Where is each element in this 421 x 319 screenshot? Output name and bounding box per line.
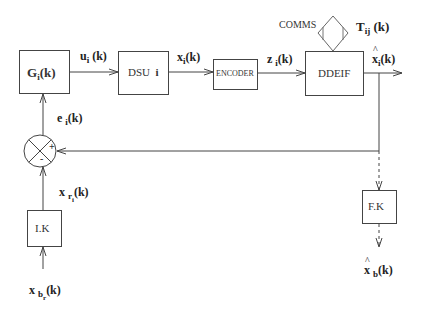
dsu-suffix: i <box>156 66 159 78</box>
signal-xhatb-label: x b(k) <box>364 264 393 279</box>
plus-text: + <box>49 141 55 152</box>
xhatb-base: x <box>364 264 370 276</box>
xhat-base: x <box>372 53 378 65</box>
t-suffix: (k) <box>373 19 389 34</box>
comms-arrow-icon <box>318 16 348 51</box>
signal-e-label: e i(k) <box>57 112 83 127</box>
plus-sign: + <box>49 142 55 152</box>
xhatb-suffix: (k) <box>378 263 393 277</box>
e-base: e <box>57 111 62 125</box>
g-suffix: (k) <box>40 65 56 80</box>
signal-z-label: z i(k) <box>267 53 293 68</box>
u-suffix: (k) <box>92 49 107 63</box>
z-base: z <box>267 52 272 66</box>
comms-text: COMMS <box>279 19 316 30</box>
ddeif-label: DDEIF <box>318 67 350 79</box>
e-suffix: (k) <box>68 111 83 125</box>
dsu-label: DSU <box>128 66 150 78</box>
xb-suffix: (k) <box>46 283 61 297</box>
minus-sign: - <box>40 154 43 164</box>
u-sub: i <box>87 55 90 65</box>
signal-xb-label: x br(k) <box>29 284 61 302</box>
ik-label: I.K <box>35 222 49 234</box>
x-suffix: (k) <box>186 50 201 64</box>
g-block-label: Gi(k) <box>27 66 56 82</box>
xb-base: x <box>29 283 35 297</box>
z-suffix: (k) <box>278 52 293 66</box>
fk-label: F.K <box>368 200 384 212</box>
signal-xr-label: x ri(k) <box>59 186 89 204</box>
signal-x-label: xi(k) <box>177 51 200 66</box>
diagram-canvas <box>0 0 421 319</box>
signal-u-label: ui (k) <box>80 50 107 65</box>
dsu-block-label: DSU i <box>128 67 159 78</box>
xr-base: x <box>59 185 65 199</box>
t-sub: ij <box>365 26 371 36</box>
minus-text: - <box>40 153 43 164</box>
ddeif-block-label: DDEIF <box>318 68 350 79</box>
fk-block-label: F.K <box>368 201 384 212</box>
t-base: T <box>356 19 365 34</box>
comms-signal-label: Tij (k) <box>356 20 389 36</box>
xr-suffix: (k) <box>74 185 89 199</box>
u-base: u <box>80 49 87 63</box>
g-label: G <box>27 65 37 80</box>
signal-xhat-label: xi(k) <box>372 53 395 68</box>
encoder-label: ENCODER <box>216 69 254 78</box>
comms-label: COMMS <box>279 20 316 30</box>
encoder-block-label: ENCODER <box>216 70 254 78</box>
xhat-suffix: (k) <box>381 52 396 66</box>
ik-block-label: I.K <box>35 223 49 234</box>
